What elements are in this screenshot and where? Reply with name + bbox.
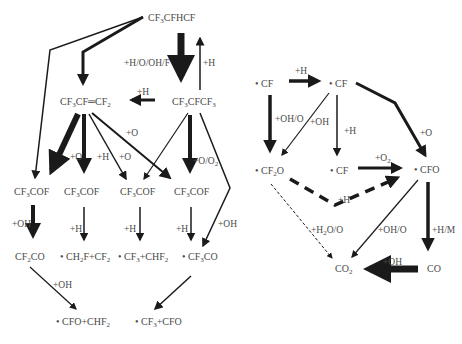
- species-cf-3: • CF: [330, 165, 348, 177]
- species-cf3cof-1: CF3COF: [14, 186, 49, 198]
- species-cf-1: • CF: [255, 78, 273, 90]
- condition-label: +OH: [12, 219, 31, 230]
- condition-label: +O: [70, 152, 82, 163]
- condition-label: +OH/O: [275, 114, 304, 125]
- condition-label: +O: [126, 128, 138, 139]
- condition-label: +H: [344, 126, 356, 137]
- species-cf3cfcf3: CF3CFCF3: [172, 96, 216, 108]
- species-cfo-chf2: • CFO+CHF2: [56, 316, 110, 328]
- condition-label-o2: +O2: [375, 153, 391, 164]
- condition-label: +H/O/OH/F: [124, 58, 170, 69]
- arrow-cf3cfcf2-to-cf3cof-4: [92, 113, 170, 178]
- condition-label: +H: [70, 224, 82, 235]
- species-cf-2: • CF: [329, 78, 347, 90]
- condition-label: +OH: [218, 219, 237, 230]
- species-cf2co: CF2CO: [15, 251, 45, 263]
- condition-label: +H: [338, 195, 350, 206]
- species-cf3-chf2: • CF3+CHF2: [118, 251, 168, 263]
- species-co: CO: [427, 263, 441, 275]
- species-cf3-cfo: • CF3+CFO: [135, 316, 182, 328]
- condition-label: +H: [176, 224, 188, 235]
- species-cf3cf-cf2: CF3CF═CF2: [60, 96, 111, 108]
- condition-label: +OH: [310, 117, 329, 128]
- condition-label: +H: [295, 66, 307, 77]
- arrow-cf3co-to-cf3-cfo: [155, 276, 191, 309]
- species-ch2f-cf2: • CH2F+CF2: [60, 251, 110, 263]
- condition-label: +H: [137, 87, 149, 98]
- species-cf3cof-3: CF3COF: [120, 186, 155, 198]
- condition-label: +OH: [383, 257, 402, 268]
- arrow-cf2o-to-co2-dotted: [271, 184, 332, 258]
- condition-label: +H/M: [432, 225, 455, 236]
- arrow-cfo-to-co2: [352, 180, 418, 257]
- arrow-cf2-to-cfo: [356, 83, 425, 155]
- arrow-cf3cfcf2-to-cf3cof-3: [89, 114, 126, 179]
- condition-label: +H: [97, 152, 109, 163]
- species-cf3cfhcf: CF3CFHCF: [148, 12, 195, 24]
- condition-label-h2o-o: +H2O/O: [311, 225, 343, 236]
- condition-label: +H: [203, 58, 215, 69]
- condition-label: +H: [124, 224, 136, 235]
- species-cf3cof-2: CF3COF: [64, 186, 99, 198]
- condition-label: +OH: [53, 280, 72, 291]
- condition-label: +O: [119, 152, 131, 163]
- condition-label: +OH/O: [378, 225, 407, 236]
- condition-label: +O: [420, 128, 432, 139]
- reaction-pathway-diagram: [0, 0, 462, 344]
- arrow-cf3cfcf3-to-cf3cof-3: [144, 113, 188, 179]
- species-cfo: • CFO: [414, 164, 439, 176]
- condition-label-o-o2: +O/O2: [193, 156, 218, 167]
- species-co2: CO2: [335, 263, 352, 275]
- species-cf2o: • CF2O: [255, 165, 284, 177]
- species-cf3co: • CF3CO: [182, 251, 218, 263]
- species-cf3cof-4: CF3COF: [174, 186, 209, 198]
